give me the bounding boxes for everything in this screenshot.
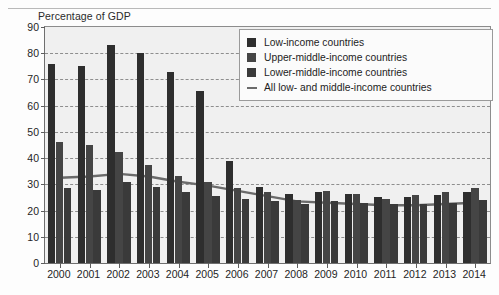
bar (137, 53, 145, 263)
x-axis-tick-label: 2006 (225, 268, 248, 280)
bar (301, 204, 309, 263)
bar (315, 192, 323, 263)
bar (412, 195, 420, 263)
y-axis-tick-label: 0 (33, 257, 39, 269)
x-axis-tick-label: 2010 (344, 268, 367, 280)
bar (374, 197, 382, 263)
bar (331, 201, 339, 263)
square-swatch-icon (247, 53, 256, 62)
bar (48, 64, 56, 263)
y-axis-tick-label: 70 (27, 73, 39, 85)
y-axis-tick (41, 27, 45, 28)
bar (226, 161, 234, 263)
x-axis-tick-label: 2002 (106, 268, 129, 280)
square-swatch-icon (247, 68, 256, 77)
chart-figure: Percentage of GDP 0102030405060708090 20… (0, 0, 499, 295)
bar (153, 187, 161, 263)
bar (64, 188, 72, 263)
x-axis-tick-label: 2012 (403, 268, 426, 280)
bar (382, 199, 390, 263)
y-axis-tick (41, 79, 45, 80)
legend-item: All low- and middle-income countries (247, 80, 486, 95)
bar (449, 203, 457, 263)
y-axis-tick (41, 237, 45, 238)
y-axis-tick-label: 40 (27, 152, 39, 164)
bar (360, 203, 368, 263)
x-axis-tick-label: 2011 (374, 268, 397, 280)
bar (86, 145, 94, 263)
x-axis-tick-label: 2005 (195, 268, 218, 280)
bar (56, 142, 64, 263)
y-axis-tick-label: 10 (27, 231, 39, 243)
bar (242, 199, 250, 263)
chart-legend: Low-income countries Upper-middle-income… (239, 29, 493, 101)
bar (442, 192, 450, 263)
legend-item-label: All low- and middle-income countries (264, 82, 432, 93)
y-axis-tick (41, 132, 45, 133)
legend-item: Upper-middle-income countries (247, 50, 486, 65)
bar (204, 182, 212, 263)
bar (323, 191, 331, 263)
legend-item: Low-income countries (247, 35, 486, 50)
y-axis-tick-label: 30 (27, 178, 39, 190)
bar (463, 192, 471, 263)
bar (107, 45, 115, 263)
x-axis-tick-label: 2000 (47, 268, 70, 280)
x-axis-tick-label: 2004 (166, 268, 189, 280)
figure-top-divider (8, 8, 491, 9)
square-swatch-icon (247, 38, 256, 47)
y-axis-tick (41, 211, 45, 212)
bar (345, 194, 353, 263)
x-axis-tick-label: 2001 (77, 268, 100, 280)
x-axis-tick-label: 2014 (462, 268, 485, 280)
bar (285, 194, 293, 263)
x-axis-tick-label: 2007 (255, 268, 278, 280)
y-axis-title: Percentage of GDP (38, 10, 131, 22)
bar (264, 192, 272, 263)
bar (471, 188, 479, 263)
x-axis-tick-label: 2009 (314, 268, 337, 280)
bar (93, 190, 101, 263)
bar (212, 196, 220, 263)
legend-item-label: Lower-middle-income countries (264, 67, 407, 78)
x-axis-tick-label: 2008 (284, 268, 307, 280)
bar (182, 192, 190, 263)
legend-item: Lower-middle-income countries (247, 65, 486, 80)
bar (78, 66, 86, 263)
y-axis-tick (41, 263, 45, 264)
bar (353, 194, 361, 263)
bar (256, 187, 264, 263)
bar (196, 91, 204, 263)
bar (115, 152, 123, 263)
x-axis-tick-label: 2013 (433, 268, 456, 280)
y-axis-tick-label: 50 (27, 126, 39, 138)
legend-item-label: Low-income countries (264, 37, 364, 48)
bar (420, 204, 428, 263)
legend-item-label: Upper-middle-income countries (264, 52, 407, 63)
y-axis-tick (41, 53, 45, 54)
bar (167, 72, 175, 263)
y-axis-tick-label: 60 (27, 100, 39, 112)
bar (404, 197, 412, 263)
y-axis-tick-label: 80 (27, 47, 39, 59)
bar (175, 176, 183, 263)
bar (293, 200, 301, 263)
y-axis-tick-label: 20 (27, 205, 39, 217)
bar (145, 165, 153, 263)
bar (234, 188, 242, 263)
bar (271, 201, 279, 263)
y-axis-tick-label: 90 (27, 21, 39, 33)
bar (434, 195, 442, 263)
y-axis-tick (41, 184, 45, 185)
x-axis-tick-label: 2003 (136, 268, 159, 280)
y-axis-tick (41, 158, 45, 159)
bar (123, 182, 131, 263)
line-swatch-icon (247, 87, 257, 89)
bar (479, 200, 487, 263)
bar (390, 204, 398, 263)
y-axis-tick (41, 106, 45, 107)
